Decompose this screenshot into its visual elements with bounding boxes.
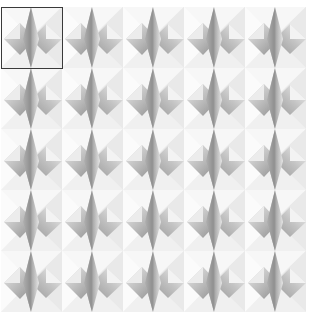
selected-tile-outline[interactable] [1,7,63,69]
